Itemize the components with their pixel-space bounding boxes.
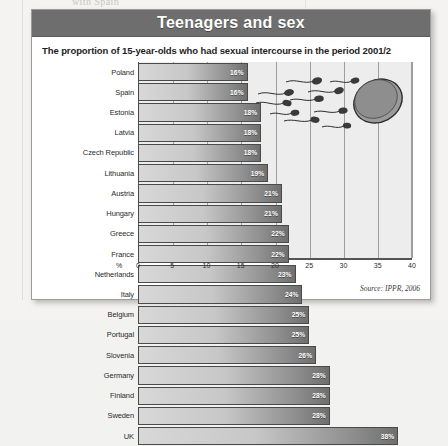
x-tick-label: 10 [203,262,211,269]
bar-row: Latvia18% [42,123,420,143]
bar-row: Lithuania19% [42,163,420,183]
bar-category-label: Portugal [42,330,134,339]
x-tick-label: 0 [136,262,140,269]
bar-value-label: 22% [271,251,288,258]
bar-category-label: Italy [42,290,134,299]
bar-row: Finland28% [42,386,420,406]
bar-category-label: Sweden [42,411,134,420]
bar-track: 18% [138,103,412,121]
bar-value-label: 18% [244,109,261,116]
bar-row: Spain16% [42,82,420,102]
bar-category-label: Finland [42,391,134,400]
bar-category-label: Germany [42,371,134,380]
bar: 21% [138,205,282,223]
bar: 16% [138,83,248,101]
bar-track: 28% [138,387,412,405]
bar-row: Sweden28% [42,406,420,426]
bar-row: Slovenia26% [42,345,420,365]
bar-value-label: 26% [299,352,316,359]
bar-rows: Poland16%Spain16%Estonia18%Latvia18%Czec… [42,62,420,258]
figure-title-bar: Teenagers and sex [32,10,430,37]
bar-track: 18% [138,144,412,162]
bar-track: 19% [138,164,412,182]
bar: 18% [138,124,261,142]
bar-track: 25% [138,306,412,324]
bar-chart: Poland16%Spain16%Estonia18%Latvia18%Czec… [42,62,420,275]
bar-category-label: Netherlands [42,270,134,279]
bar: 38% [138,427,398,445]
bar: 19% [138,164,268,182]
bar-track: 28% [138,366,412,384]
x-tick-label: 25 [305,262,313,269]
bar-track: 28% [138,407,412,425]
bar: 18% [138,103,261,121]
bar-category-label: UK [42,432,134,441]
bar-row: Czech Republic18% [42,143,420,163]
bar-row: Portugal25% [42,325,420,345]
bar-value-label: 24% [285,291,302,298]
source-credit: Source: IPPR, 2006 [360,284,420,293]
bar-category-label: Belgium [42,310,134,319]
bar-category-label: Austria [42,189,134,198]
bar-value-label: 25% [292,311,309,318]
bar-value-label: 18% [244,129,261,136]
bar-track: 16% [138,83,412,101]
bar-track: 18% [138,124,412,142]
x-tick-label: 15 [237,262,245,269]
bar-category-label: Czech Republic [42,148,134,157]
percent-axis-label: % [116,262,122,269]
figure-subtitle: The proportion of 15-year-olds who had s… [32,37,430,60]
bar-category-label: Slovenia [42,351,134,360]
bar: 18% [138,144,261,162]
bar-track: 21% [138,205,412,223]
bar-value-label: 25% [292,331,309,338]
bar: 16% [138,63,248,81]
bar-track: 26% [138,346,412,364]
bar-row: Belgium25% [42,305,420,325]
bar-row: Estonia18% [42,102,420,122]
bar-track: 25% [138,326,412,344]
bar-category-label: Lithuania [42,169,134,178]
bar-value-label: 28% [312,392,329,399]
bar-row: UK38% [42,426,420,446]
bar-category-label: Hungary [42,209,134,218]
x-tick-label: 30 [340,262,348,269]
bar-value-label: 28% [312,412,329,419]
bar-value-label: 19% [251,170,268,177]
bar-track: 38% [138,427,412,445]
bar-value-label: 21% [264,210,281,217]
page-margin-rule [22,0,23,300]
bar-row: Poland16% [42,62,420,82]
bar-category-label: France [42,250,134,259]
bar-track: 22% [138,225,412,243]
x-tick-label: 40 [408,262,416,269]
bar-category-label: Latvia [42,128,134,137]
bar: 21% [138,184,282,202]
bar-value-label: 16% [230,69,247,76]
figure-title: Teenagers and sex [157,14,305,32]
bar: 26% [138,346,316,364]
bar-row: Hungary21% [42,204,420,224]
bar-row: Germany28% [42,365,420,385]
infographic-figure: Teenagers and sex The proportion of 15-y… [31,9,431,300]
bar: 22% [138,225,289,243]
x-tick-label: 5 [170,262,174,269]
x-tick-label: 35 [374,262,382,269]
bar-category-label: Estonia [42,108,134,117]
bar: 25% [138,326,309,344]
bar-value-label: 16% [230,89,247,96]
bar: 28% [138,387,330,405]
bar-category-label: Poland [42,68,134,77]
bar-track: 16% [138,63,412,81]
x-axis-ticks: 0510152025303540 [138,260,412,274]
bar: 28% [138,366,330,384]
bar-value-label: 28% [312,372,329,379]
bar: 25% [138,306,309,324]
bar-row: Greece22% [42,224,420,244]
bar-track: 21% [138,184,412,202]
bar-value-label: 18% [244,149,261,156]
bar-value-label: 38% [381,433,398,440]
x-tick-label: 20 [271,262,279,269]
bar-category-label: Spain [42,88,134,97]
bar-category-label: Greece [42,229,134,238]
